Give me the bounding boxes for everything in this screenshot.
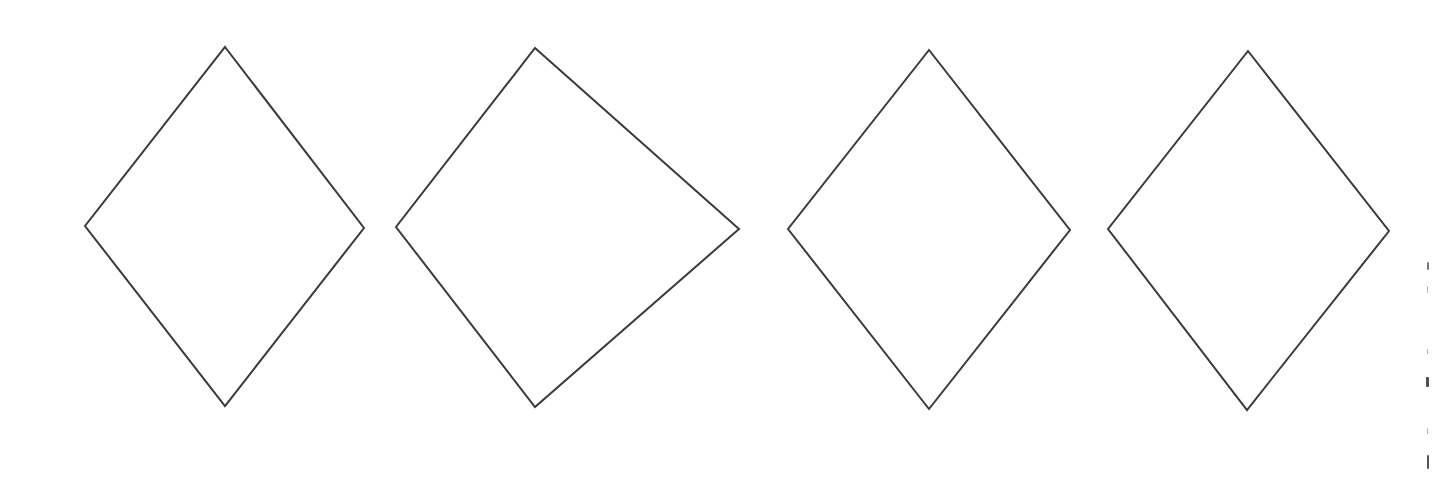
text-fragment-mark: [1427, 349, 1428, 354]
rhombus-shape-3: [788, 50, 1070, 409]
text-fragment-mark: [1427, 286, 1428, 293]
text-fragment-mark: [1427, 455, 1429, 469]
kite-shape-2: [396, 48, 739, 407]
text-fragment-mark: [1427, 262, 1429, 270]
rhombus-shape-4: [1108, 51, 1389, 410]
text-fragment-mark: [1426, 377, 1429, 387]
clipped-text-fragments: [1424, 0, 1455, 482]
text-fragment-mark: [1427, 428, 1428, 434]
shapes-figure: [0, 0, 1455, 482]
rhombus-shape-1: [85, 47, 364, 406]
